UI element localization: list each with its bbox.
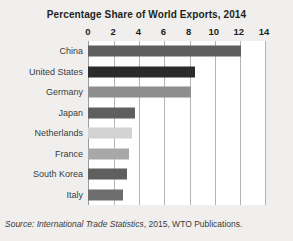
x-tick-label: 6 — [161, 26, 166, 37]
category-label: Germany — [0, 87, 83, 97]
category-label: Italy — [0, 190, 83, 200]
category-label: France — [0, 149, 83, 159]
x-tick-label: 14 — [259, 26, 270, 37]
chart-title: Percentage Share of World Exports, 2014 — [0, 9, 293, 20]
source-publication-title: International Trade Statistics — [37, 219, 144, 229]
source-suffix: , 2015, WTO Publications. — [144, 219, 243, 229]
bar-row: China — [0, 41, 293, 62]
bar-row: United States — [0, 62, 293, 83]
bar — [88, 128, 132, 139]
bar — [88, 189, 123, 200]
category-label: United States — [0, 67, 83, 77]
x-axis-tick-labels: 02468101214 — [0, 26, 293, 40]
bar — [88, 87, 191, 98]
bar-row: South Korea — [0, 164, 293, 185]
x-tick-label: 12 — [234, 26, 245, 37]
x-tick-label: 10 — [208, 26, 219, 37]
bar-row: Japan — [0, 103, 293, 124]
x-tick-label: 0 — [85, 26, 90, 37]
source-prefix: Source: — [5, 219, 37, 229]
bar — [88, 66, 195, 77]
bar-row: Germany — [0, 82, 293, 103]
plot-wrapper: 02468101214 ChinaUnited StatesGermanyJap… — [0, 26, 293, 211]
category-label: South Korea — [0, 169, 83, 179]
bar-rows: ChinaUnited StatesGermanyJapanNetherland… — [0, 41, 293, 205]
bar — [88, 46, 241, 57]
category-label: Netherlands — [0, 128, 83, 138]
bar-row: Italy — [0, 185, 293, 206]
bar-row: Netherlands — [0, 123, 293, 144]
bar — [88, 169, 127, 180]
x-tick-label: 4 — [136, 26, 141, 37]
chart-figure: Percentage Share of World Exports, 2014 … — [0, 0, 293, 241]
category-label: China — [0, 46, 83, 56]
bar — [88, 148, 129, 159]
x-tick-label: 8 — [186, 26, 191, 37]
x-tick-label: 2 — [110, 26, 115, 37]
bar — [88, 107, 135, 118]
bar-row: France — [0, 144, 293, 165]
category-label: Japan — [0, 108, 83, 118]
source-note: Source: International Trade Statistics, … — [5, 219, 242, 229]
